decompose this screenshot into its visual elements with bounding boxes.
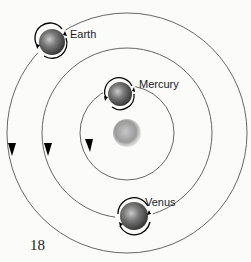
label-venus: Venus [145,196,176,208]
sun [113,119,141,147]
orbit-direction-arrow-icon [85,139,93,152]
planet-earth [34,23,70,60]
solar-system-diagram: Earth Mercury Venus 18 [0,0,251,262]
orbit-direction-arrow-icon [44,143,52,156]
planet-mercury [103,77,137,111]
label-mercury: Mercury [139,78,179,90]
label-earth: Earth [70,28,96,40]
page-number: 18 [30,237,45,253]
